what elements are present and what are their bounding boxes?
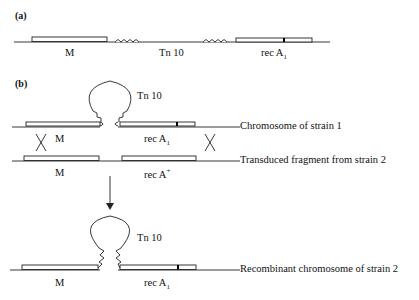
gene-m-box-frag [24,156,99,161]
tn10-loop-r [90,216,129,268]
reca-label-r: rec A1 [144,278,170,291]
reca-label-frag: rec A+ [144,168,170,180]
gene-m-label-1: M [55,134,64,145]
reca-mutation-mark-r [177,265,179,270]
gene-reca-box-a [236,38,312,42]
tn10-label-1: Tn 10 [137,91,162,102]
gene-reca-box-1 [120,122,195,126]
tn10-label-r: Tn 10 [137,233,162,244]
reca-label-1: rec A1 [144,134,170,147]
reca-label-a: rec A1 [261,48,287,61]
tn10-junction-1 [100,122,118,126]
gene-m-box-1 [26,122,100,126]
panel-b-label: (b) [15,79,27,89]
gene-reca-box-frag [122,156,196,161]
tn10-label-a: Tn 10 [159,48,184,59]
caption-recombinant: Recombinant chromosome of strain 2 [240,264,398,275]
gene-m-label-r: M [55,278,64,289]
gene-reca-box-r [120,265,196,270]
caption-chromosome-1: Chromosome of strain 1 [240,121,342,132]
tn10-loop-1 [89,81,131,122]
gene-m-box-a [32,37,107,42]
caption-fragment: Transduced fragment from strain 2 [240,155,386,166]
diagram-canvas [0,0,419,300]
reca-mutation-mark-1 [176,122,178,126]
gene-m-label-a: M [65,48,74,59]
gene-m-label-frag: M [55,168,64,179]
panel-a-label: (a) [15,11,27,21]
is10-left-a [115,40,139,43]
is10-right-a [203,40,227,43]
reca-mutation-mark-a [283,38,285,42]
gene-m-box-r [22,265,98,270]
